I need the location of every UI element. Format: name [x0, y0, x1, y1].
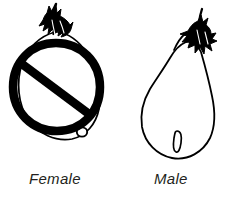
blossom-scar-oval [173, 131, 181, 152]
calyx-crease [52, 20, 64, 35]
eggplant-round-icon [19, 4, 101, 140]
stem-tip [199, 9, 202, 22]
stem-tip [51, 4, 56, 14]
calyx-crease [197, 30, 208, 44]
caption-male: Male [154, 171, 188, 186]
caption-female: Female [29, 171, 81, 186]
fruit-outline [141, 42, 214, 159]
diagram-canvas: Female Male [0, 0, 228, 201]
no-entry-slash-icon [13, 43, 100, 131]
calyx-spiky-crown [39, 5, 73, 37]
prohibition-circle [13, 43, 100, 131]
prohibition-slash [22, 64, 93, 117]
blossom-scar-round [77, 127, 87, 136]
eggplant-pear-icon [141, 9, 217, 159]
calyx-spiky-star [180, 15, 217, 54]
neck-curve [174, 33, 186, 50]
fruit-outline [19, 32, 101, 140]
